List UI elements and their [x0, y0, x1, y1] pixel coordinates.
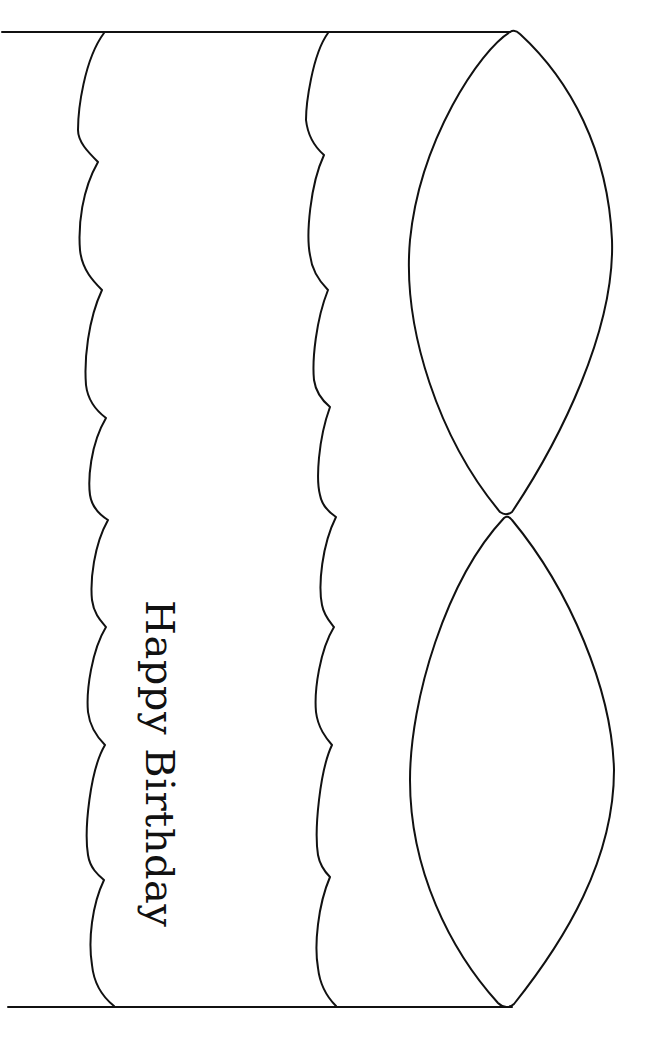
happy-birthday-caption: Happy Birthday — [140, 600, 180, 927]
frosting-scallop-left — [78, 33, 114, 1006]
cake-top-lens-lower — [410, 517, 614, 1007]
birthday-cake-drawing — [0, 0, 672, 1041]
frosting-scallop-right — [306, 33, 336, 1006]
cake-top-lens-upper — [409, 31, 612, 515]
